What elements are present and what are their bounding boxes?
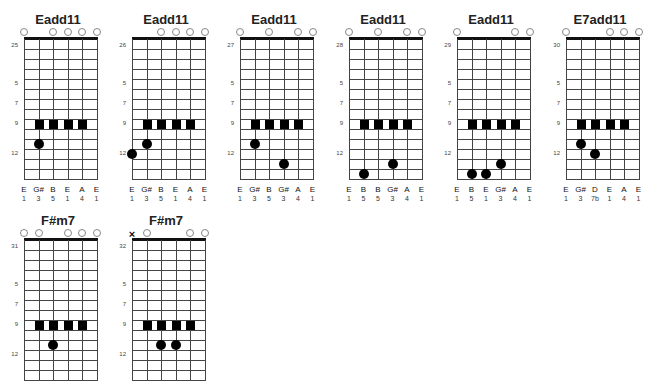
start-fret-number: 25 — [4, 42, 18, 48]
open-string-icon — [157, 28, 165, 36]
fret-line — [24, 380, 98, 381]
fret-label: 12 — [112, 150, 126, 156]
fret-line — [24, 360, 98, 361]
fret-label: 7 — [437, 100, 451, 106]
fret-line — [240, 149, 314, 150]
start-fret-number: 26 — [112, 42, 126, 48]
string-note: A — [183, 185, 197, 194]
start-fret-number: 30 — [546, 42, 560, 48]
finger-square-marker — [78, 321, 87, 330]
fret-line — [457, 109, 531, 110]
finger-square-marker — [49, 321, 58, 330]
chord-diagram: F#m73257912× — [108, 213, 216, 385]
fret-label: 9 — [4, 321, 18, 327]
fret-label: 5 — [4, 281, 18, 287]
fret-line — [240, 109, 314, 110]
string-interval: 7b — [588, 195, 602, 202]
fret-line — [349, 89, 423, 90]
open-string-icon — [403, 28, 411, 36]
fret-line — [132, 270, 206, 271]
finger-square-marker — [78, 120, 87, 129]
string-interval: 3 — [140, 195, 154, 202]
string-note: E — [233, 185, 247, 194]
finger-square-marker — [403, 120, 412, 129]
fret-line — [457, 69, 531, 70]
fret-line — [566, 109, 640, 110]
fret-line — [132, 360, 206, 361]
open-string-icon — [35, 229, 43, 237]
finger-square-marker — [157, 321, 166, 330]
string-interval: 1 — [450, 195, 464, 202]
string-note: E — [523, 185, 537, 194]
finger-square-marker — [49, 120, 58, 129]
fret-line — [132, 49, 206, 50]
fret-label: 9 — [329, 120, 343, 126]
string-interval: 4 — [291, 195, 305, 202]
chord-name: Eadd11 — [220, 12, 328, 27]
fret-line — [566, 79, 640, 80]
string-note: E — [169, 185, 183, 194]
string-note: E — [125, 185, 139, 194]
fret-line — [24, 109, 98, 110]
string-interval: 1 — [169, 195, 183, 202]
nut — [349, 37, 423, 40]
start-fret-number: 32 — [112, 243, 126, 249]
string-note: A — [75, 185, 89, 194]
finger-square-marker — [157, 120, 166, 129]
fret-label: 9 — [4, 120, 18, 126]
finger-square-marker — [251, 120, 260, 129]
fret-line — [132, 290, 206, 291]
fret-line — [24, 270, 98, 271]
fret-line — [24, 159, 98, 160]
chord-diagram: Eadd112657912EG#BEAE135141 — [108, 12, 216, 212]
fret-label: 5 — [220, 80, 234, 86]
fret-line — [132, 109, 206, 110]
open-string-icon — [606, 28, 614, 36]
string-note: E — [415, 185, 429, 194]
fret-line — [132, 350, 206, 351]
fret-line — [24, 129, 98, 130]
string-interval: 3 — [277, 195, 291, 202]
string-note: E — [559, 185, 573, 194]
string-interval: 1 — [125, 195, 139, 202]
fret-line — [566, 49, 640, 50]
string-interval: 3 — [32, 195, 46, 202]
fret-label: 9 — [437, 120, 451, 126]
finger-square-marker — [143, 321, 152, 330]
string-interval: 5 — [154, 195, 168, 202]
fret-label: 9 — [546, 120, 560, 126]
fret-line — [457, 99, 531, 100]
fret-label: 12 — [437, 150, 451, 156]
finger-dot-marker — [481, 169, 491, 179]
fret-line — [24, 149, 98, 150]
fret-line — [566, 89, 640, 90]
fret-line — [132, 99, 206, 100]
chord-diagram: Eadd112857912EBBG#AE155341 — [325, 12, 433, 212]
chord-diagram: Eadd112957912EBEG#AE151341 — [433, 12, 541, 212]
fret-line — [24, 250, 98, 251]
finger-square-marker — [482, 120, 491, 129]
fret-line — [132, 179, 206, 180]
open-string-icon — [265, 28, 273, 36]
string-note: E — [61, 185, 75, 194]
fret-line — [566, 169, 640, 170]
string-interval: 1 — [342, 195, 356, 202]
finger-dot-marker — [142, 139, 152, 149]
fret-line — [24, 69, 98, 70]
open-string-icon — [511, 28, 519, 36]
fret-label: 7 — [112, 301, 126, 307]
open-string-icon — [526, 28, 534, 36]
chord-name: Eadd11 — [329, 12, 437, 27]
finger-square-marker — [64, 321, 73, 330]
string-note: G# — [32, 185, 46, 194]
fret-line — [24, 330, 98, 331]
open-string-icon — [345, 28, 353, 36]
fret-line — [457, 149, 531, 150]
string-note: E — [198, 185, 212, 194]
finger-square-marker — [172, 120, 181, 129]
open-string-icon — [236, 28, 244, 36]
fret-line — [349, 59, 423, 60]
fret-line — [240, 69, 314, 70]
fret-line — [24, 89, 98, 90]
fret-line — [349, 79, 423, 80]
